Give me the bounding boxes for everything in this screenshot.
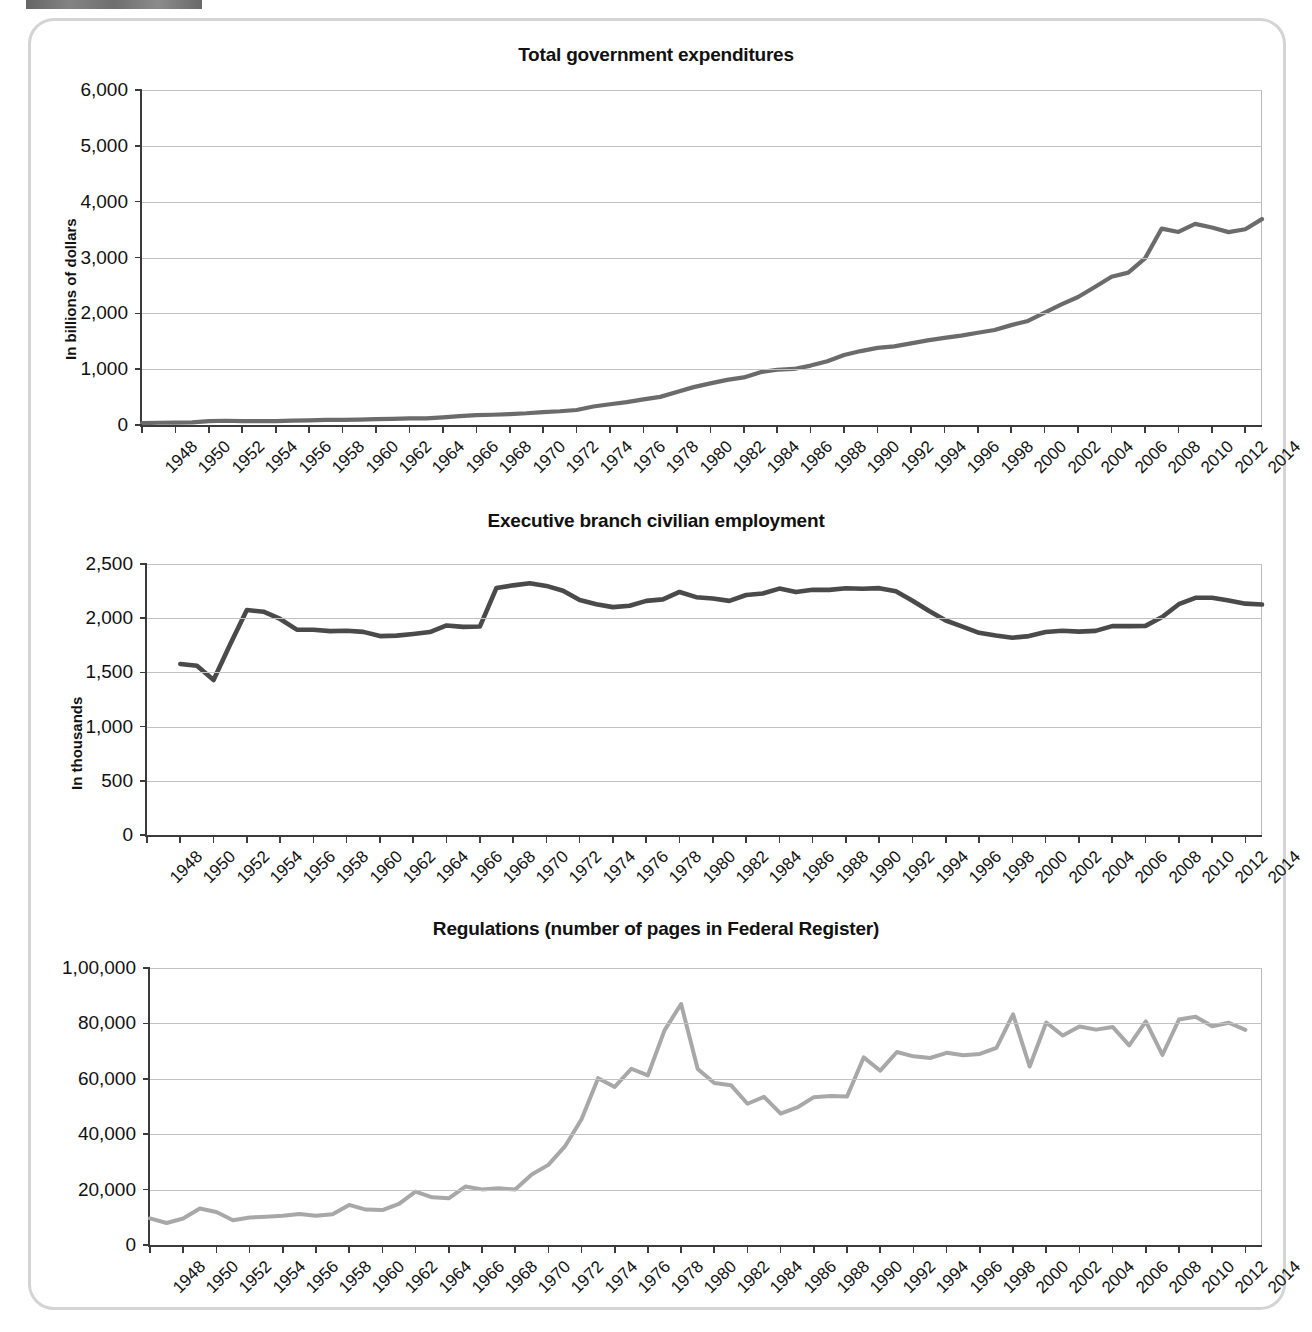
x-tick-mark — [149, 1245, 151, 1253]
x-tick-mark — [179, 835, 181, 843]
x-tick-label: 1954 — [269, 1257, 310, 1298]
x-tick-mark — [476, 425, 478, 433]
x-tick-label: 2004 — [1098, 847, 1139, 888]
x-tick-label: 1994 — [930, 437, 971, 478]
x-tick-label: 2012 — [1231, 847, 1272, 888]
x-tick-mark — [1079, 1245, 1081, 1253]
x-tick-mark — [780, 1245, 782, 1253]
chart-panel-executive-branch-civilian-employment: Executive branch civilian employment In … — [0, 500, 1312, 920]
y-axis-label-employment: In thousands — [68, 697, 85, 790]
x-tick-label: 2006 — [1132, 1257, 1173, 1298]
x-tick-mark — [1044, 425, 1046, 433]
x-tick-label: 2014 — [1264, 437, 1305, 478]
x-tick-mark — [1178, 835, 1180, 843]
x-tick-mark — [379, 835, 381, 843]
x-tick-mark — [609, 425, 611, 433]
gridline — [142, 369, 1262, 370]
x-tick-label: 1992 — [897, 437, 938, 478]
x-tick-label: 1998 — [999, 1257, 1040, 1298]
x-tick-mark — [1045, 835, 1047, 843]
x-tick-label: 2000 — [1032, 1257, 1073, 1298]
x-tick-mark — [1211, 1245, 1213, 1253]
x-tick-label: 1980 — [700, 1257, 741, 1298]
x-tick-mark — [249, 1245, 251, 1253]
y-tick-label: 6,000 — [80, 79, 128, 101]
x-tick-label: 1948 — [166, 847, 207, 888]
y-tick-mark — [135, 89, 142, 91]
x-tick-label: 1954 — [266, 847, 307, 888]
x-tick-label: 1952 — [235, 1257, 276, 1298]
x-tick-mark — [1245, 835, 1247, 843]
x-tick-label: 2002 — [1064, 437, 1105, 478]
x-tick-mark — [1145, 835, 1147, 843]
x-tick-label: 1996 — [963, 437, 1004, 478]
x-tick-mark — [713, 1245, 715, 1253]
gridline — [142, 90, 1262, 91]
x-tick-label: 1982 — [733, 1257, 774, 1298]
x-tick-mark — [846, 1245, 848, 1253]
x-tick-label: 2014 — [1264, 847, 1305, 888]
x-tick-mark — [680, 1245, 682, 1253]
x-tick-label: 1978 — [663, 437, 704, 478]
x-tick-mark — [216, 1245, 218, 1253]
x-tick-mark — [279, 835, 281, 843]
x-tick-mark — [382, 1245, 384, 1253]
gridline — [150, 968, 1262, 969]
x-tick-label: 1970 — [532, 847, 573, 888]
x-tick-mark — [1012, 835, 1014, 843]
x-tick-mark — [612, 835, 614, 843]
y-tick-mark — [135, 313, 142, 315]
x-tick-label: 1966 — [462, 437, 503, 478]
x-tick-mark — [647, 1245, 649, 1253]
x-tick-label: 1960 — [368, 1257, 409, 1298]
y-tick-label: 2,000 — [85, 607, 133, 629]
y-tick-label: 4,000 — [80, 191, 128, 213]
x-tick-mark — [175, 425, 177, 433]
y-tick-mark — [135, 145, 142, 147]
x-tick-mark — [1245, 1245, 1247, 1253]
x-tick-mark — [747, 1245, 749, 1253]
gridline — [150, 1023, 1262, 1024]
x-tick-mark — [1211, 835, 1213, 843]
x-tick-mark — [810, 425, 812, 433]
y-tick-mark — [143, 1133, 150, 1135]
x-tick-mark — [213, 835, 215, 843]
x-tick-label: 1962 — [395, 437, 436, 478]
x-tick-label: 1982 — [732, 847, 773, 888]
x-tick-label: 1990 — [865, 847, 906, 888]
x-tick-label: 1972 — [562, 437, 603, 478]
x-tick-mark — [448, 1245, 450, 1253]
y-tick-label: 1,000 — [85, 716, 133, 738]
x-tick-mark — [446, 835, 448, 843]
x-tick-mark — [208, 425, 210, 433]
x-tick-label: 1968 — [499, 847, 540, 888]
gridline — [147, 564, 1262, 565]
y-tick-mark — [140, 563, 147, 565]
x-tick-label: 1952 — [233, 847, 274, 888]
x-tick-label: 1956 — [302, 1257, 343, 1298]
x-tick-label: 1966 — [466, 847, 507, 888]
x-tick-mark — [676, 425, 678, 433]
x-tick-label: 2006 — [1131, 847, 1172, 888]
y-tick-mark — [135, 201, 142, 203]
x-tick-mark — [246, 835, 248, 843]
y-tick-mark — [143, 1189, 150, 1191]
x-tick-label: 1976 — [632, 847, 673, 888]
x-tick-mark — [946, 1245, 948, 1253]
x-tick-label: 2004 — [1099, 1257, 1140, 1298]
x-tick-label: 1958 — [328, 437, 369, 478]
y-tick-mark — [140, 617, 147, 619]
x-tick-mark — [712, 835, 714, 843]
x-tick-mark — [743, 425, 745, 433]
x-tick-mark — [1178, 1245, 1180, 1253]
x-tick-label: 1994 — [932, 847, 973, 888]
x-tick-label: 2008 — [1164, 437, 1205, 478]
x-tick-mark — [877, 425, 879, 433]
gridline — [147, 727, 1262, 728]
x-tick-label: 1996 — [966, 1257, 1007, 1298]
x-tick-label: 1986 — [800, 1257, 841, 1298]
y-tick-label: 80,000 — [78, 1012, 136, 1034]
x-tick-mark — [1112, 1245, 1114, 1253]
x-tick-mark — [910, 425, 912, 433]
x-tick-mark — [512, 835, 514, 843]
